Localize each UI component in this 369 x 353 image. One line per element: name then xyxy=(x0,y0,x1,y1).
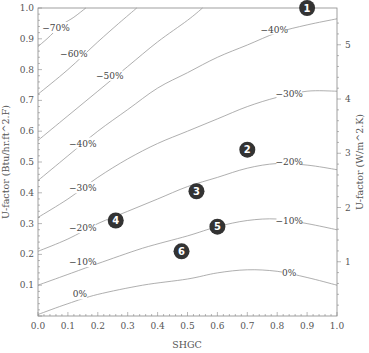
contour-label: −10% xyxy=(275,216,303,226)
y-tick-label: 0.8 xyxy=(20,65,35,75)
x-tick-label: 0.8 xyxy=(270,321,285,331)
y-axis-title-left: U-factor (Btu/hr.ft^2.F) xyxy=(0,105,11,219)
x-axis: 0.00.10.20.30.40.50.60.70.80.91.0 xyxy=(31,312,345,331)
contour-chart: 0%0%−10%−10%−20%−20%−30%−30%−40%−40%−50%… xyxy=(0,0,369,353)
contour-label: 0% xyxy=(73,289,88,299)
contour-label: −30% xyxy=(69,183,97,193)
y-tick-label: 1.0 xyxy=(20,3,35,13)
x-tick-label: 0.1 xyxy=(61,321,75,331)
contour-label: −30% xyxy=(275,89,303,99)
contour-label: −70% xyxy=(42,23,70,33)
y-tick-label: 0.4 xyxy=(20,188,35,198)
y2-tick-label: 3 xyxy=(345,148,351,158)
contour-line xyxy=(38,91,337,218)
x-tick-label: 0.2 xyxy=(91,321,105,331)
y2-tick-label: 5 xyxy=(345,40,351,50)
contour-label: 0% xyxy=(282,268,297,278)
y2-tick-label: 2 xyxy=(345,203,351,213)
contour-label: −40% xyxy=(260,25,288,35)
x-axis-title: SHGC xyxy=(172,339,202,350)
marker-label: 3 xyxy=(193,186,200,197)
x-tick-label: 0.7 xyxy=(240,321,255,331)
y-tick-label: 0.3 xyxy=(20,219,35,229)
contour-label: −40% xyxy=(69,139,97,149)
marker-label: 6 xyxy=(178,246,185,257)
contour-label: −20% xyxy=(69,223,97,233)
x-tick-label: 0.3 xyxy=(121,321,136,331)
contour-label: −20% xyxy=(275,157,303,167)
marker-label: 4 xyxy=(112,215,119,226)
marker-label: 2 xyxy=(244,144,251,155)
x-tick-label: 0.0 xyxy=(31,321,46,331)
contour-line xyxy=(38,163,337,251)
y-tick-label: 0.5 xyxy=(20,157,35,167)
y-axis-right: 12345 xyxy=(337,23,351,305)
y-tick-label: 0.6 xyxy=(20,126,35,136)
y2-tick-label: 1 xyxy=(345,257,351,267)
y-tick-label: 0.9 xyxy=(20,34,35,44)
y2-tick-label: 4 xyxy=(345,94,351,104)
x-tick-label: 0.6 xyxy=(210,321,225,331)
y-tick-label: 0.1 xyxy=(20,280,34,290)
contour-label: −50% xyxy=(96,71,124,81)
contour-label: −10% xyxy=(69,257,97,267)
marker-label: 5 xyxy=(214,221,221,232)
marker-label: 1 xyxy=(304,3,311,14)
y-axis-title-right: U-factor (W/m^2.K) xyxy=(354,114,365,210)
contour-labels: 0%0%−10%−10%−20%−20%−30%−30%−40%−40%−50%… xyxy=(42,22,303,299)
x-tick-label: 1.0 xyxy=(330,321,345,331)
x-tick-label: 0.9 xyxy=(300,321,315,331)
y-tick-label: 0.2 xyxy=(20,249,34,259)
contour-label: −60% xyxy=(60,49,88,59)
y-tick-label: 0.7 xyxy=(20,95,35,105)
x-tick-label: 0.4 xyxy=(150,321,165,331)
x-tick-label: 0.5 xyxy=(180,321,195,331)
y-axis-left: 0.10.20.30.40.50.60.70.80.91.0 xyxy=(20,3,42,316)
